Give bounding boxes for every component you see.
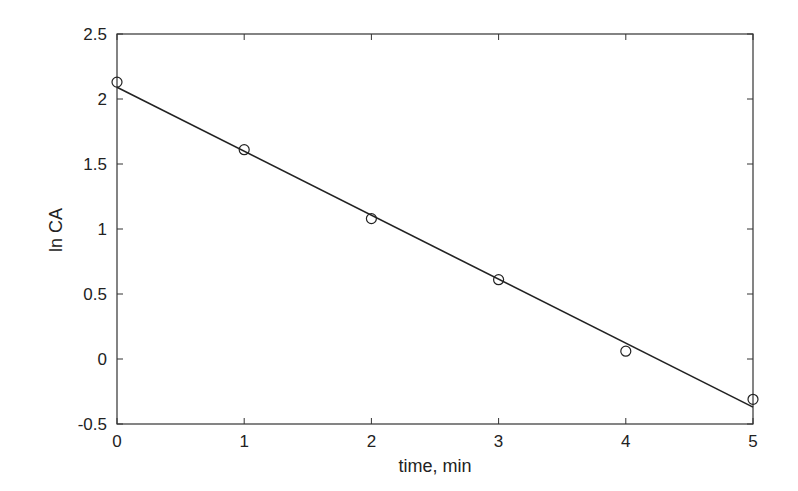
y-tick-label: 1.5 (83, 155, 107, 174)
data-point-marker (621, 346, 631, 356)
y-axis-label: ln CA (46, 208, 66, 252)
plot-frame (117, 34, 753, 424)
regression-line (117, 87, 753, 407)
fit-line (117, 87, 753, 407)
y-tick-label: 1 (98, 220, 107, 239)
y-tick-label: 0 (98, 350, 107, 369)
y-tick-label: 0.5 (83, 285, 107, 304)
x-axis-label: time, min (398, 456, 471, 476)
ln-ca-vs-time-chart: -0.500.511.522.5 012345 time, min ln CA (0, 0, 798, 491)
plot-border (117, 34, 753, 424)
x-tick-label: 3 (494, 432, 503, 451)
x-tick-label: 4 (621, 432, 630, 451)
y-tick-label: 2.5 (83, 25, 107, 44)
x-tick-label: 5 (748, 432, 757, 451)
y-tick-label: -0.5 (78, 415, 107, 434)
y-axis-ticks: -0.500.511.522.5 (78, 25, 753, 434)
x-axis-ticks: 012345 (112, 34, 757, 451)
x-tick-label: 1 (239, 432, 248, 451)
y-tick-label: 2 (98, 90, 107, 109)
x-tick-label: 2 (367, 432, 376, 451)
data-points (112, 77, 758, 404)
x-tick-label: 0 (112, 432, 121, 451)
